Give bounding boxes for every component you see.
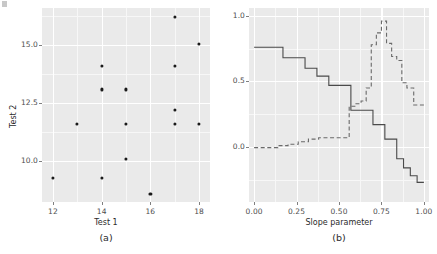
x-tick-mark-a <box>150 202 151 205</box>
step-curves <box>219 0 437 254</box>
grid-line-horizontal <box>42 103 210 104</box>
curve-solid <box>254 47 424 182</box>
figure-root: 15.0 12.5 10.0 12 14 16 18 Test 1 Test 2… <box>0 0 437 254</box>
x-tick-mark-a <box>53 202 54 205</box>
panel-a-scatter: 15.0 12.5 10.0 12 14 16 18 Test 1 Test 2… <box>0 0 219 254</box>
grid-line-horizontal-minor <box>42 16 210 17</box>
x-tick-label-a-0: 12 <box>48 207 58 216</box>
y-axis-title-a: Test 2 <box>9 105 18 128</box>
x-axis-title-a: Test 1 <box>94 218 117 227</box>
grid-line-vertical-minor <box>77 8 78 202</box>
grid-line-horizontal-minor <box>42 74 210 75</box>
y-tick-label-a-2: 10.0 <box>8 156 38 165</box>
curve-dashed <box>254 21 424 147</box>
grid-line-vertical <box>150 8 151 202</box>
x-tick-label-a-1: 14 <box>97 207 107 216</box>
panel-caption-a: (a) <box>99 232 112 243</box>
grid-line-horizontal <box>42 45 210 46</box>
x-tick-label-a-3: 18 <box>194 207 204 216</box>
grid-line-vertical-minor <box>175 8 176 202</box>
y-tick-label-a-0: 15.0 <box>8 40 38 49</box>
y-tick-mark-a <box>39 103 42 104</box>
grid-line-horizontal-minor <box>42 132 210 133</box>
panel-b-lines: 1.0 0.5 0.0 0.00 0.25 0.50 0.75 1.00 Slo… <box>219 0 437 254</box>
x-tick-mark-a <box>102 202 103 205</box>
y-tick-mark-a <box>39 161 42 162</box>
grid-line-horizontal <box>42 161 210 162</box>
grid-line-vertical <box>199 8 200 202</box>
x-tick-label-a-2: 16 <box>145 207 155 216</box>
grid-line-vertical <box>102 8 103 202</box>
grid-line-vertical <box>53 8 54 202</box>
y-tick-mark-a <box>39 45 42 46</box>
grid-line-vertical-minor <box>126 8 127 202</box>
x-tick-mark-a <box>199 202 200 205</box>
